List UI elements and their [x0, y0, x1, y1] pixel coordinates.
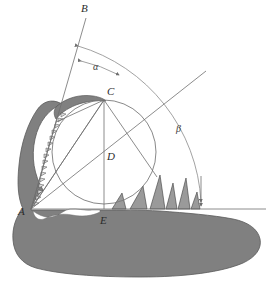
mandible-body-shape	[13, 101, 261, 277]
jaw-teeth-group	[112, 175, 200, 209]
label-A: A	[17, 205, 25, 217]
figure-container: B α C β D A E	[0, 0, 273, 288]
arc-alpha	[81, 61, 119, 75]
label-C: C	[107, 85, 115, 97]
label-alpha: α	[93, 61, 99, 72]
label-D: D	[106, 150, 115, 162]
geometry-figure: B α C β D A E	[0, 0, 273, 288]
tooth-6	[191, 192, 200, 209]
tooth-2	[130, 186, 147, 209]
tooth-5	[178, 178, 190, 209]
tooth-4	[166, 183, 177, 209]
line-C-chord-right	[104, 100, 157, 177]
label-E: E	[99, 214, 107, 226]
label-beta: β	[175, 123, 181, 134]
label-B-top: B	[81, 2, 88, 14]
tooth-1	[112, 193, 126, 209]
mandible-silhouette	[13, 95, 261, 277]
tooth-3	[150, 175, 165, 209]
line-ray-beta	[31, 71, 206, 209]
